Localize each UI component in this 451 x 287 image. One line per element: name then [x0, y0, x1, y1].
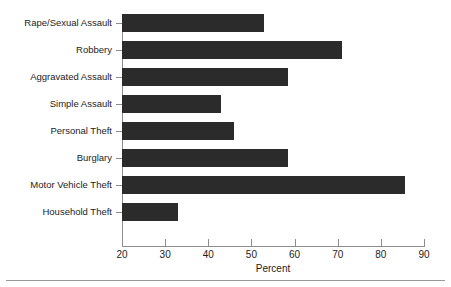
x-axis-tick-label: 60 [289, 249, 300, 260]
bar-household-theft [122, 203, 178, 221]
x-axis-tick [251, 239, 252, 247]
x-axis-tick [295, 239, 296, 247]
x-axis-line [122, 246, 424, 247]
category-label: Robbery [0, 41, 112, 59]
category-axis-labels: Rape/Sexual Assault Robbery Aggravated A… [0, 14, 112, 237]
x-axis-tick-label: 20 [116, 249, 127, 260]
bar-burglary [122, 149, 288, 167]
x-axis-tick-label: 90 [418, 249, 429, 260]
bar-aggravated-assault [122, 68, 288, 86]
x-axis-tick [338, 239, 339, 247]
x-axis-tick [208, 239, 209, 247]
bar-motor-vehicle-theft [122, 176, 405, 194]
category-label: Motor Vehicle Theft [0, 176, 112, 194]
bar-chart: Rape/Sexual Assault Robbery Aggravated A… [0, 0, 451, 287]
x-axis-tick-label: 70 [332, 249, 343, 260]
x-axis-tick-label: 30 [160, 249, 171, 260]
x-axis-tick [122, 239, 123, 247]
x-axis-tick-label: 40 [203, 249, 214, 260]
bar-simple-assault [122, 95, 221, 113]
x-axis-tick [424, 239, 425, 247]
x-axis-tick [381, 239, 382, 247]
category-label: Aggravated Assault [0, 68, 112, 86]
bar-personal-theft [122, 122, 234, 140]
plot-area [122, 14, 424, 237]
x-axis-tick-label: 50 [246, 249, 257, 260]
x-axis-tick [165, 239, 166, 247]
category-label: Rape/Sexual Assault [0, 14, 112, 32]
bar-robbery [122, 41, 342, 59]
bar-rape-sexual-assault [122, 14, 264, 32]
category-label: Burglary [0, 149, 112, 167]
footer-divider [6, 280, 445, 281]
category-label: Personal Theft [0, 122, 112, 140]
category-label: Simple Assault [0, 95, 112, 113]
x-axis-title: Percent [122, 263, 424, 274]
x-axis-tick-label: 80 [375, 249, 386, 260]
category-label: Household Theft [0, 203, 112, 221]
